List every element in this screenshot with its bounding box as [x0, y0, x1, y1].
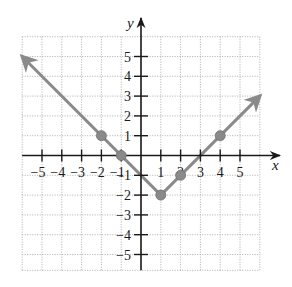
- y-axis-label: y: [125, 15, 134, 31]
- axes: [22, 18, 280, 270]
- y-tick-label: 2: [124, 109, 131, 124]
- x-tick-label: −3: [70, 165, 85, 180]
- x-tick-label: 4: [217, 165, 224, 180]
- x-axis-label: x: [271, 157, 279, 173]
- point-marker: [176, 170, 186, 180]
- y-tick-label: 3: [124, 89, 131, 104]
- x-tick-label: −5: [31, 165, 46, 180]
- y-tick-label: −5: [116, 248, 131, 263]
- coordinate-plane: −5−4−3−2−112345−5−4−3−2−112345 x y: [0, 0, 292, 287]
- y-tick-label: 4: [124, 69, 131, 84]
- y-tick-label: −3: [116, 208, 131, 223]
- y-tick-label: 1: [124, 129, 131, 144]
- y-tick-label: −2: [116, 188, 131, 203]
- y-tick-label: −1: [116, 168, 131, 183]
- x-tick-label: 3: [197, 165, 204, 180]
- point-marker: [156, 190, 166, 200]
- point-marker: [96, 131, 106, 141]
- y-tick-label: 5: [124, 50, 131, 65]
- x-tick-label: −2: [90, 165, 105, 180]
- point-marker: [215, 131, 225, 141]
- x-tick-label: 1: [157, 165, 164, 180]
- y-tick-label: −4: [116, 228, 131, 243]
- x-tick-label: 5: [237, 165, 244, 180]
- point-marker: [116, 151, 126, 161]
- x-tick-label: −4: [50, 165, 65, 180]
